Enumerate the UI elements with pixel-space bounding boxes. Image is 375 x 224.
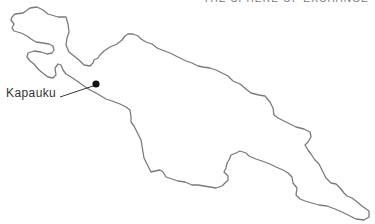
new-guinea-map — [0, 0, 375, 224]
kapauku-marker — [92, 80, 99, 87]
island-outline — [11, 7, 369, 220]
location-label-kapauku: Kapauku — [6, 86, 56, 100]
kapauku-leader-line — [60, 86, 93, 97]
